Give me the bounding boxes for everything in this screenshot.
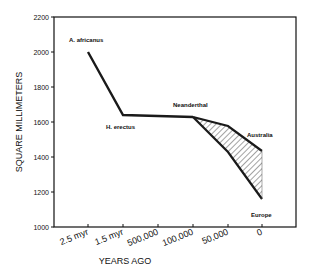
x-tick-label: 2.5 myr <box>58 227 90 248</box>
annotation-europe: Europe <box>251 212 272 218</box>
y-axis: 2200 2000 1800 1600 1400 1200 1000 SQUAR… <box>14 14 54 231</box>
x-axis-title: YEARS AGO <box>99 256 152 266</box>
y-tick-label: 1600 <box>33 119 49 126</box>
x-tick-label: 1.5 myr <box>93 227 125 248</box>
x-axis: 2.5 myr 1.5 myr 500,000 100,000 50,000 0… <box>58 224 264 266</box>
x-tick-label: 500,000 <box>126 227 160 248</box>
annotation-africanus: A. africanus <box>69 37 104 43</box>
x-tick-label: 0 <box>255 227 263 238</box>
y-tick-label: 2000 <box>33 49 49 56</box>
x-tick-label: 50,000 <box>200 227 229 247</box>
annotation-neanderthal: Neanderthal <box>173 102 208 108</box>
y-tick-label: 1400 <box>33 154 49 161</box>
y-tick-label: 1800 <box>33 84 49 91</box>
annotation-erectus: H. erectus <box>106 124 136 130</box>
y-axis-title: SQUARE MILLIMETERS <box>14 72 24 173</box>
hatched-region <box>193 117 262 199</box>
y-tick-label: 1200 <box>33 189 49 196</box>
annotation-australia: Australia <box>247 132 273 138</box>
chart: 2200 2000 1800 1600 1400 1200 1000 SQUAR… <box>0 0 313 280</box>
y-tick-label: 1000 <box>33 224 49 231</box>
y-tick-label: 2200 <box>33 14 49 21</box>
x-tick-label: 100,000 <box>161 227 195 248</box>
